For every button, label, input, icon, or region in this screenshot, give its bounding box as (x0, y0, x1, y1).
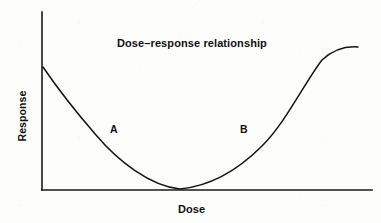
chart-title: Dose–response relationship (117, 37, 267, 49)
annotation-b: B (240, 123, 248, 135)
dose-response-chart: Dose–response relationship Response Dose… (0, 0, 381, 223)
annotation-a: A (110, 123, 118, 135)
dose-response-curve (43, 47, 358, 189)
y-axis-label: Response (16, 85, 28, 147)
plot-area (0, 0, 381, 223)
x-axis-label: Dose (178, 203, 205, 215)
